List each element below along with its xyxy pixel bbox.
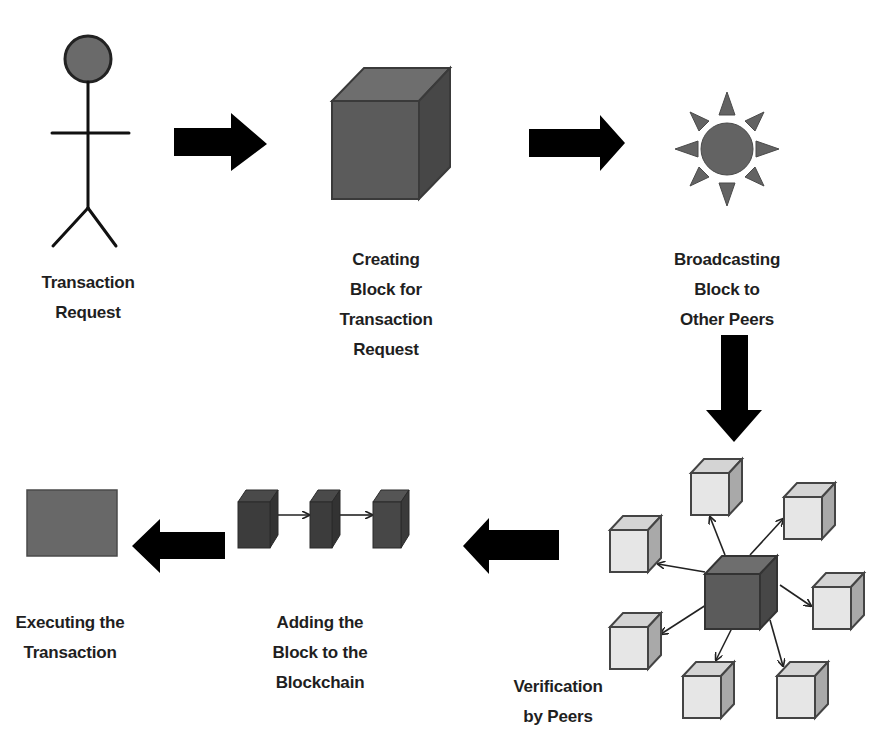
peer-block-icon	[777, 662, 828, 718]
label-line: Transaction	[5, 638, 135, 668]
flow-arrow-left-icon	[132, 519, 225, 573]
chain-block-icon	[373, 490, 409, 548]
label-line: Request	[316, 335, 456, 365]
flow-arrow-right-icon	[174, 113, 267, 171]
label-line: Adding the	[255, 608, 385, 638]
label-line: Block to	[652, 275, 802, 305]
executed-box-icon	[27, 490, 117, 556]
label-broadcasting: Broadcasting Block to Other Peers	[652, 245, 802, 335]
blockchain-icon	[238, 490, 409, 548]
label-creating-block: Creating Block for Transaction Request	[316, 245, 456, 365]
center-block-icon	[705, 556, 777, 629]
peer-block-icon	[610, 516, 661, 572]
flow-arrow-left-icon	[463, 518, 559, 574]
flow-arrow-right-icon	[529, 115, 625, 171]
peer-block-icon	[691, 459, 742, 515]
label-executing: Executing the Transaction	[5, 608, 135, 668]
label-line: Blockchain	[255, 668, 385, 698]
label-transaction-request: Transaction Request	[18, 268, 158, 328]
label-verification: Verification by Peers	[493, 672, 623, 732]
label-line: Executing the	[5, 608, 135, 638]
label-line: Broadcasting	[652, 245, 802, 275]
label-line: Block to the	[255, 638, 385, 668]
chain-block-icon	[310, 490, 340, 548]
peer-block-icon	[610, 613, 661, 669]
sun-broadcast-icon	[675, 92, 779, 206]
label-line: Transaction	[18, 268, 158, 298]
peer-block-icon	[683, 662, 734, 718]
label-line: by Peers	[493, 702, 623, 732]
label-line: Request	[18, 298, 158, 328]
label-line: Transaction	[316, 305, 456, 335]
label-line: Block for	[316, 275, 456, 305]
peer-block-icon	[813, 573, 864, 629]
label-line: Verification	[493, 672, 623, 702]
label-line: Creating	[316, 245, 456, 275]
peer-network-icon	[610, 459, 864, 718]
chain-block-icon	[238, 490, 278, 548]
label-adding-block: Adding the Block to the Blockchain	[255, 608, 385, 698]
cube-icon	[332, 68, 450, 199]
peer-block-icon	[784, 483, 835, 539]
flow-arrow-down-icon	[706, 335, 762, 442]
label-line: Other Peers	[652, 305, 802, 335]
stick-figure-icon	[52, 36, 129, 246]
